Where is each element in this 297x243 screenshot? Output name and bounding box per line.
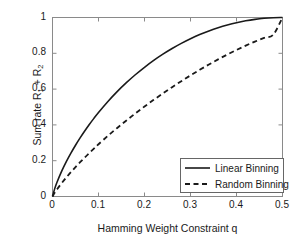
y-axis-label-prefix: Sum rate R xyxy=(31,92,43,145)
xtick-label: 0.4 xyxy=(223,199,249,210)
xtick-label: 0.2 xyxy=(131,199,157,210)
legend-label: Random Binning xyxy=(215,179,289,190)
legend-line-sample-solid xyxy=(184,163,211,173)
y-axis-label: Sum rate R1 + R2 xyxy=(31,15,45,195)
legend-item-linear-binning: Linear Binning xyxy=(181,160,283,176)
x-axis-label: Hamming Weight Constraint q xyxy=(52,222,283,234)
y-axis-label-sub1: 1 xyxy=(36,88,45,92)
figure-container: 1 0.8 0.6 0.4 0.2 0 0 0.1 0.2 0.3 0.4 0.… xyxy=(0,0,297,243)
xtick-label: 0.1 xyxy=(85,199,111,210)
legend-label: Linear Binning xyxy=(215,163,279,174)
legend-line-sample-dashed xyxy=(184,179,211,189)
xtick-label: 0.5 xyxy=(269,199,295,210)
y-axis-label-sub2: 2 xyxy=(36,65,45,69)
xtick-label: 0 xyxy=(39,199,65,210)
xtick-label: 0.3 xyxy=(177,199,203,210)
y-axis-label-mid: + R xyxy=(31,69,43,89)
legend-item-random-binning: Random Binning xyxy=(181,176,283,192)
legend: Linear Binning Random Binning xyxy=(180,158,284,193)
